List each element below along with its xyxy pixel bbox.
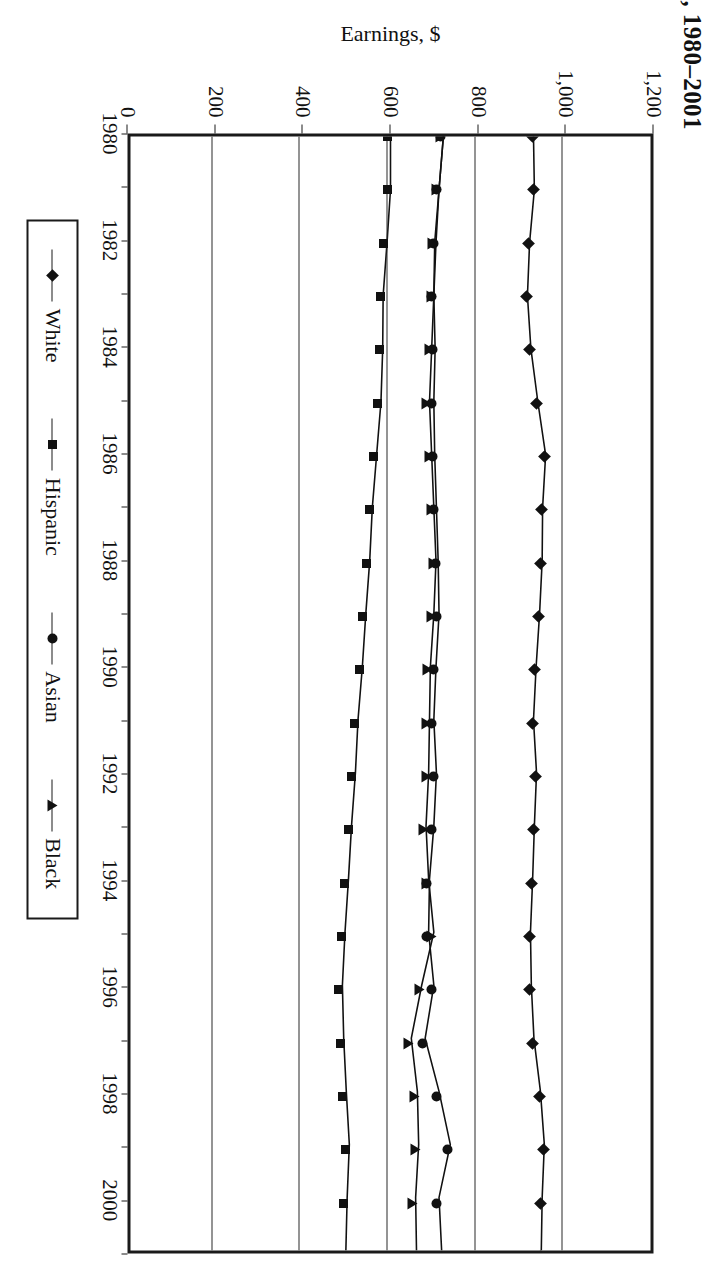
plot-area <box>127 133 653 1253</box>
y-axis-tick <box>301 124 302 133</box>
series-line <box>425 136 450 1250</box>
x-axis-tick <box>121 506 127 507</box>
y-axis-tick-label: 600 <box>378 86 403 118</box>
legend-item-label: Hispanic <box>39 477 65 555</box>
x-axis-tick <box>121 613 127 614</box>
x-axis-tick <box>121 933 127 934</box>
x-axis-tick <box>121 1146 127 1147</box>
y-axis-tick-label: 800 <box>465 86 490 118</box>
x-axis-tick <box>121 560 127 561</box>
gridline <box>386 136 387 1250</box>
circle-marker-icon <box>47 633 57 643</box>
gridline <box>561 136 562 1250</box>
legend-item-label: White <box>39 308 65 362</box>
x-axis-tick-label: 1986 <box>96 432 121 474</box>
x-axis-tick <box>121 186 127 187</box>
x-axis-tick <box>121 240 127 241</box>
series-line <box>342 136 390 1250</box>
legend-marker-diamond-icon <box>45 249 59 301</box>
chart-legend: WhiteHispanicAsianBlack <box>26 219 78 919</box>
chart-canvas: , 1980–2001 Earnings, $ 1,2001,000800600… <box>0 0 707 1283</box>
gridline <box>474 136 475 1250</box>
y-axis-tick-label: 1,200 <box>641 70 666 117</box>
y-axis-tick <box>389 124 390 133</box>
x-axis-tick-label: 1994 <box>96 859 121 901</box>
x-axis-tick-label: 1996 <box>96 965 121 1007</box>
x-axis-tick <box>121 986 127 987</box>
legend-item-white[interactable]: White <box>39 249 65 362</box>
y-axis-tick <box>126 124 127 133</box>
legend-item-black[interactable]: Black <box>39 779 65 889</box>
legend-item-hispanic[interactable]: Hispanic <box>39 418 65 555</box>
legend-marker-circle-icon <box>45 612 59 664</box>
legend-item-label: Asian <box>39 671 65 722</box>
x-axis-tick-label: 1998 <box>96 1072 121 1114</box>
x-axis-tick-label: 1990 <box>96 645 121 687</box>
triangle-marker-icon <box>47 799 57 811</box>
gridline <box>211 136 212 1250</box>
legend-item-label: Black <box>39 838 65 889</box>
y-axis-tick <box>477 124 478 133</box>
x-axis-tick-label: 1982 <box>96 219 121 261</box>
chart-title: , 1980–2001 <box>677 0 705 129</box>
x-axis-tick <box>121 1253 127 1254</box>
x-axis-tick-label: 1980 <box>96 112 121 154</box>
x-axis-tick <box>121 346 127 347</box>
x-axis-tick-label: 1992 <box>96 752 121 794</box>
diamond-marker-icon <box>46 269 59 282</box>
x-axis-tick <box>121 880 127 881</box>
gridline <box>298 136 299 1250</box>
x-axis-tick-label: 1988 <box>96 539 121 581</box>
y-axis-title: Earnings, $ <box>127 18 653 48</box>
legend-marker-square-icon <box>45 418 59 470</box>
y-axis-tick-label: 1,000 <box>553 70 578 117</box>
y-axis-tick <box>652 124 653 133</box>
series-lines <box>130 136 650 1250</box>
x-axis-tick <box>121 1093 127 1094</box>
plot-inner <box>130 136 650 1250</box>
x-axis-tick <box>121 133 127 134</box>
square-marker-icon <box>48 440 57 449</box>
y-axis-tick <box>564 124 565 133</box>
x-axis-tick <box>121 773 127 774</box>
x-axis-tick-label: 2000 <box>96 1179 121 1221</box>
x-axis-tick <box>121 720 127 721</box>
x-axis-tick <box>121 826 127 827</box>
x-axis-tick <box>121 1040 127 1041</box>
y-axis-tick-label: 400 <box>290 86 315 118</box>
x-axis-tick <box>121 293 127 294</box>
y-axis-tick <box>214 124 215 133</box>
series-line <box>411 136 443 1250</box>
legend-marker-triangle-icon <box>45 779 59 831</box>
x-axis-tick <box>121 666 127 667</box>
x-axis-tick <box>121 453 127 454</box>
legend-item-asian[interactable]: Asian <box>39 612 65 722</box>
x-axis-tick-label: 1984 <box>96 325 121 367</box>
x-axis-tick <box>121 1200 127 1201</box>
series-line <box>527 136 545 1250</box>
x-axis-tick <box>121 400 127 401</box>
y-axis-title-text: Earnings, $ <box>340 20 440 46</box>
y-axis-tick-label: 200 <box>202 86 227 118</box>
